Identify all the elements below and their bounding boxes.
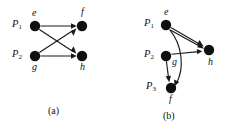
- arrowhead-g-to-h-panel-b: [197, 49, 203, 54]
- node-label-e-panel-b: e: [164, 7, 168, 17]
- node-label-e-panel-a: e: [32, 8, 36, 18]
- process-label-p1-panel-a: P1: [12, 19, 22, 31]
- node-label-h-panel-b: h: [208, 57, 213, 67]
- process-subscript-p3-panel-b: 3: [153, 85, 157, 93]
- panel-b-nodes: [161, 20, 214, 93]
- arrowhead-g-to-f-panel-b: [166, 76, 171, 83]
- node-g-panel-a[interactable]: [30, 51, 40, 61]
- node-label-f-panel-b: f: [169, 94, 172, 104]
- edge-g-to-h-panel-b: [171, 52, 198, 55]
- arrowhead-e-to-f-panel-a: [71, 23, 77, 28]
- panel-a-edges: [39, 23, 77, 58]
- arrowhead-g-to-h-panel-a: [71, 53, 77, 58]
- edge-g-to-f-panel-a: [39, 30, 73, 52]
- arrowhead-g-to-f-panel-a: [71, 28, 77, 36]
- arrowhead-e-to-h-panel-a: [71, 46, 77, 54]
- process-label-p2-panel-b: P2: [144, 49, 154, 61]
- process-subscript-p2-panel-b: 2: [151, 53, 155, 61]
- node-label-h-panel-a: h: [80, 62, 85, 72]
- caption-panel-a: (a): [48, 106, 59, 116]
- process-subscript-p2-panel-a: 2: [19, 53, 23, 61]
- node-label-f-panel-a: f: [81, 7, 84, 17]
- node-e-panel-b[interactable]: [161, 20, 171, 30]
- process-subscript-p1-panel-a: 1: [19, 23, 23, 31]
- process-label-p2-panel-a: P2: [12, 49, 22, 61]
- node-label-g-panel-b: g: [172, 57, 177, 67]
- node-h-panel-a[interactable]: [77, 51, 87, 61]
- edge-g-to-f-panel-b: [166, 61, 168, 78]
- process-subscript-p1-panel-b: 1: [151, 22, 155, 30]
- node-f-panel-a[interactable]: [77, 21, 87, 31]
- node-h-panel-b[interactable]: [204, 45, 214, 55]
- edge-e-to-h-panel-a: [39, 29, 73, 51]
- node-g-panel-b[interactable]: [161, 51, 171, 61]
- caption-panel-b: (b): [163, 111, 175, 121]
- process-label-p3-panel-b: P3: [146, 81, 156, 93]
- edge-e-to-h-panel-b: [171, 28, 200, 45]
- node-label-g-panel-a: g: [32, 62, 37, 72]
- process-label-p1-panel-b: P1: [144, 18, 154, 30]
- panel-a-nodes: [30, 21, 87, 61]
- node-e-panel-a[interactable]: [30, 21, 40, 31]
- figure-root: e f g h P1 P2 (a) e g f h P1 P2 P3 (b): [0, 0, 231, 131]
- node-f-panel-b[interactable]: [166, 83, 176, 93]
